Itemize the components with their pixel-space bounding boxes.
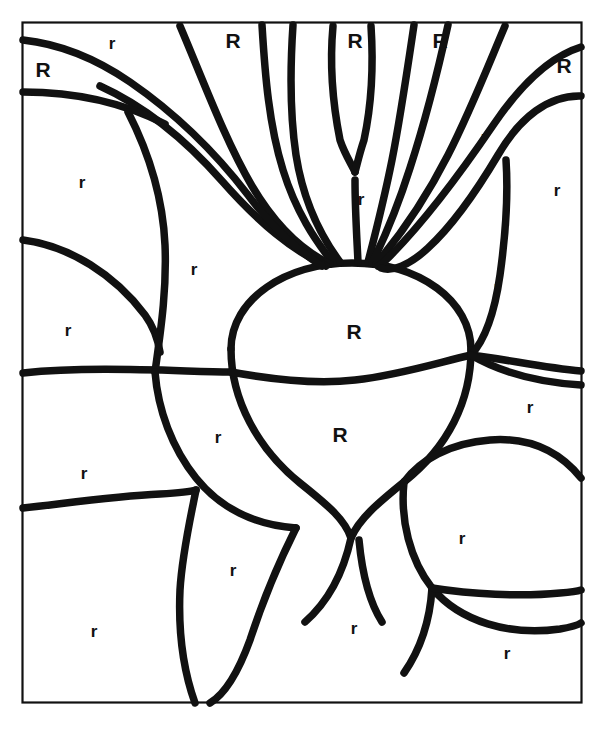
region-letter-label: r	[358, 191, 365, 208]
region-letter-label: r	[81, 465, 88, 482]
region-letter-label: R	[225, 30, 240, 51]
region-letter-label: r	[494, 279, 501, 296]
region-letter-label: r	[215, 429, 222, 446]
region-letter-label: R	[347, 30, 362, 51]
region-letter-label: R	[432, 30, 447, 51]
region-letter-label: r	[351, 620, 358, 637]
region-letter-label: r	[527, 399, 534, 416]
line-art-canvas	[0, 0, 601, 729]
band-left-segment	[23, 369, 231, 373]
region-letter-label: r	[65, 322, 72, 339]
region-letter-label: R	[35, 59, 50, 80]
region-letter-label: r	[554, 182, 561, 199]
region-letter-label: r	[191, 261, 198, 278]
region-letter-label: r	[459, 530, 466, 547]
region-letter-label: r	[504, 645, 511, 662]
region-letter-label: R	[556, 55, 571, 76]
region-letter-label: r	[109, 35, 116, 52]
region-letter-label: r	[91, 623, 98, 640]
region-letter-label: R	[346, 321, 361, 342]
region-letter-label: r	[481, 129, 488, 146]
region-letter-label: r	[230, 562, 237, 579]
region-letter-label: r	[79, 174, 86, 191]
region-letter-label: R	[332, 424, 347, 445]
coloring-page: rRRRRRrrrrrrRrrRrrrrrrr	[0, 0, 601, 729]
